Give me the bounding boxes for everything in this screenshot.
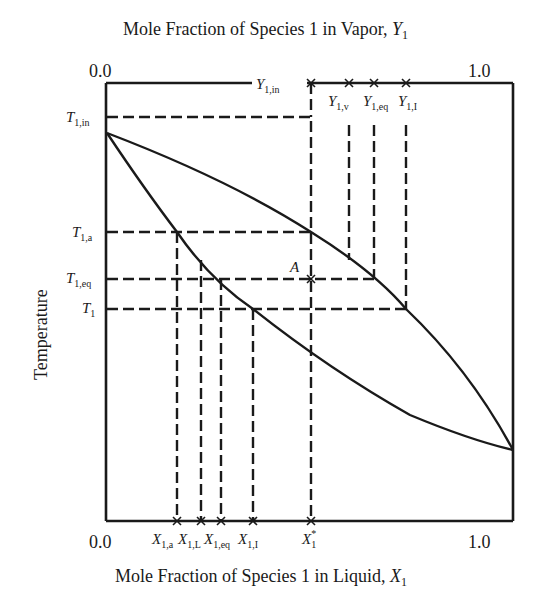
x1I-label: X1,I: [237, 531, 258, 550]
t1a-label: T1,a: [72, 224, 93, 243]
bottom-tick-0: 0.0: [89, 532, 112, 552]
bottom-axis-title: Mole Fraction of Species 1 in Liquid, X1: [115, 566, 407, 589]
y1I-label: Y1,I: [398, 93, 417, 112]
point-a-label: A: [289, 259, 300, 275]
y1in-label: Y1,in: [256, 76, 280, 95]
t1eq-label: T1,eq: [66, 270, 91, 289]
top-axis-title: Mole Fraction of Species 1 in Vapor, Y1: [123, 19, 408, 42]
x1L-label: X1,L: [177, 531, 201, 550]
t1-label: T1: [82, 300, 95, 319]
y1v-label: Y1,v: [328, 93, 349, 112]
y1eq-label: Y1,eq: [363, 93, 388, 112]
x1eq-label: X1,eq: [203, 531, 230, 550]
y-axis-title: Temperature: [31, 289, 51, 380]
top-tick-0: 0.0: [89, 61, 112, 81]
phase-diagram: Mole Fraction of Species 1 in Vapor, Y1 …: [0, 0, 557, 599]
bottom-tick-1: 1.0: [468, 532, 491, 552]
top-tick-1: 1.0: [468, 61, 491, 81]
x1star-label: X1*: [301, 528, 316, 550]
t1in-label: T1,in: [66, 109, 90, 128]
x1a-label: X1,a: [151, 531, 174, 550]
